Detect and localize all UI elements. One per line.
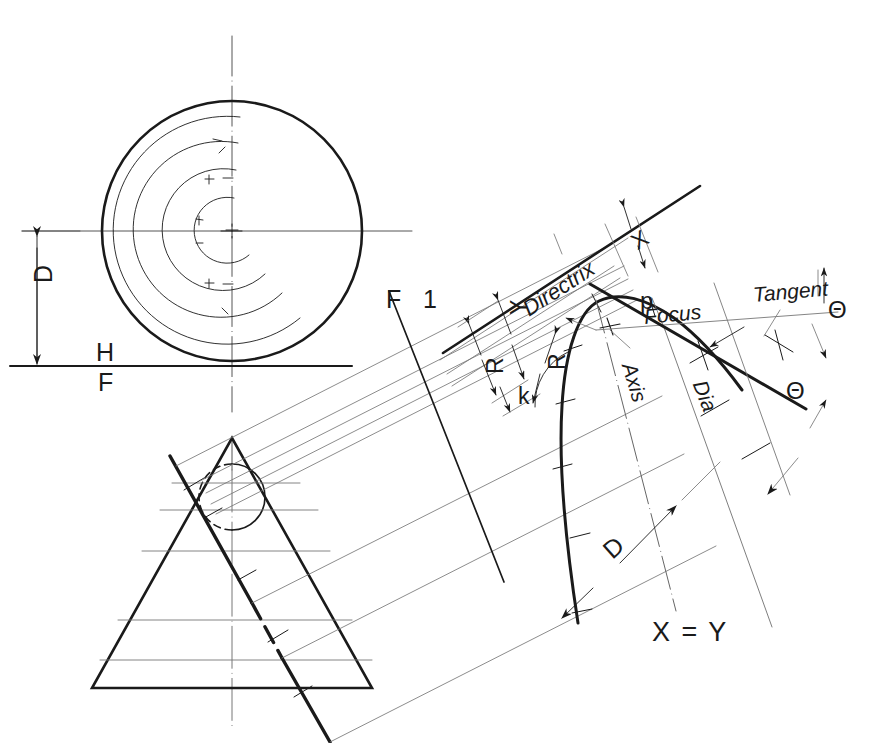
dim-label-d-top: D — [29, 265, 58, 283]
drawing-canvas: D H F F 1 Directrix X Y R k R p Focus Ta… — [0, 0, 875, 743]
dia-line — [665, 330, 772, 627]
fold-line-label-f: F — [98, 368, 113, 397]
theta-label-upper: Θ — [828, 296, 847, 324]
tangent-leader-tick — [764, 310, 780, 336]
technical-drawing-svg — [0, 0, 875, 743]
dim-label-y: Y — [506, 300, 533, 315]
projection-lines-group — [176, 247, 716, 742]
parabola-axis-line — [596, 300, 676, 611]
cutting-plane-hidden — [252, 603, 282, 658]
cut-point-ticks — [184, 478, 312, 697]
fold-line-label-f1-right: 1 — [423, 285, 437, 314]
f1-fold-line — [389, 291, 504, 582]
construction-arc-4 — [194, 197, 249, 263]
fold-line-label-f1-left: F — [386, 285, 401, 314]
construction-arc-3 — [162, 169, 265, 291]
front-view-group — [92, 438, 372, 742]
construction-arc-2 — [133, 141, 282, 317]
parabola-curve — [561, 297, 742, 623]
construction-arc-1 — [113, 116, 300, 344]
relation-label: X = Y — [652, 617, 728, 648]
top-view-group — [22, 36, 412, 470]
dim-d-aux-group — [562, 462, 720, 618]
cutting-plane-lower — [282, 658, 330, 742]
tangent-leader — [710, 327, 744, 347]
directrix-leader — [554, 234, 562, 254]
focus-label: Focus — [643, 300, 702, 329]
theta-label-lower: Θ — [786, 377, 805, 405]
focus-leader — [610, 330, 630, 348]
arc-tick-marks — [196, 139, 242, 314]
dim-label-r-upper: R — [482, 357, 509, 374]
parabola-point-ticks — [553, 294, 655, 613]
dim-label-k: k — [518, 383, 530, 410]
f1-fold-line-group — [389, 291, 504, 582]
fold-line-label-h: H — [96, 338, 114, 367]
inscribed-circle-solid — [232, 464, 265, 530]
dim-label-r-lower: R — [544, 353, 571, 370]
theta-lower-group — [768, 400, 826, 494]
aux-boundary-line — [714, 283, 790, 495]
focal-chord-line — [596, 312, 838, 330]
